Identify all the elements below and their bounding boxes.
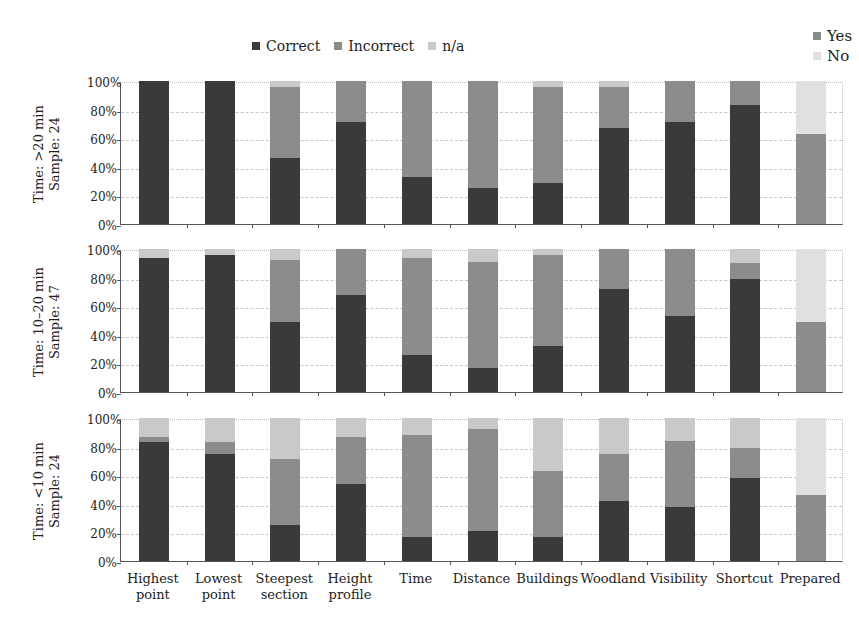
x-tick-mark bbox=[187, 392, 188, 396]
x-tick-mark bbox=[318, 392, 319, 396]
y-tick-mark bbox=[117, 112, 121, 113]
x-label-prepared: Prepared bbox=[777, 571, 843, 587]
bar-visibility bbox=[665, 418, 695, 561]
segment-correct bbox=[270, 525, 300, 561]
y-tick-mark bbox=[117, 140, 121, 141]
y-tick-mark bbox=[117, 308, 121, 309]
bar-height-profile bbox=[336, 418, 366, 561]
segment-no bbox=[796, 418, 826, 495]
bar-woodland bbox=[599, 81, 629, 224]
x-label-steepest: Steepestsection bbox=[251, 571, 317, 603]
swatch-incorrect bbox=[334, 42, 342, 50]
y-tick-label: 60% bbox=[87, 470, 117, 484]
segment-incorrect bbox=[665, 249, 695, 316]
x-tick-mark bbox=[450, 224, 451, 228]
segment-incorrect bbox=[402, 81, 432, 177]
panel-sample-label: Sample: 47 bbox=[47, 267, 63, 377]
panel-label-2: Time: <10 minSample: 24 bbox=[22, 419, 72, 562]
segment-correct bbox=[402, 537, 432, 561]
bar-time bbox=[402, 249, 432, 392]
x-tick-mark bbox=[713, 561, 714, 565]
segment-correct bbox=[599, 128, 629, 224]
segment-incorrect bbox=[665, 81, 695, 122]
bar-lowest-point bbox=[205, 249, 235, 392]
bar-lowest-point bbox=[205, 418, 235, 561]
y-tick-label: 80% bbox=[87, 442, 117, 456]
x-tick-mark bbox=[778, 224, 779, 228]
x-tick-mark bbox=[384, 392, 385, 396]
segment-correct bbox=[468, 188, 498, 224]
x-label-buildings: Buildings bbox=[514, 571, 580, 587]
x-tick-mark bbox=[515, 392, 516, 396]
x-label-height: Heightprofile bbox=[317, 571, 383, 603]
bar-height-profile bbox=[336, 81, 366, 224]
x-tick-mark bbox=[581, 224, 582, 228]
segment-correct bbox=[402, 177, 432, 224]
panel-sample-label: Sample: 24 bbox=[47, 105, 63, 203]
segment-correct bbox=[336, 122, 366, 224]
y-tick-label: 20% bbox=[87, 190, 117, 204]
segment-no bbox=[796, 81, 826, 134]
segment-correct bbox=[336, 484, 366, 561]
x-label-lowest: Lowestpoint bbox=[186, 571, 252, 603]
bar-height-profile bbox=[336, 249, 366, 392]
panel-time-label: Time: 10–20 min bbox=[31, 267, 47, 377]
segment-na bbox=[402, 418, 432, 435]
segment-correct bbox=[533, 346, 563, 392]
segment-incorrect bbox=[336, 249, 366, 295]
panel-sample-label: Sample: 24 bbox=[47, 442, 63, 540]
segment-correct bbox=[270, 322, 300, 392]
segment-correct bbox=[599, 501, 629, 561]
segment-incorrect bbox=[270, 87, 300, 159]
segment-incorrect bbox=[533, 255, 563, 347]
y-tick-label: 60% bbox=[87, 133, 117, 147]
segment-correct bbox=[205, 454, 235, 561]
x-label-highest: Highestpoint bbox=[120, 571, 186, 603]
segment-incorrect bbox=[730, 81, 760, 105]
segment-na bbox=[270, 418, 300, 459]
segment-na bbox=[730, 249, 760, 263]
y-tick-mark bbox=[117, 251, 121, 252]
segment-correct bbox=[665, 507, 695, 561]
segment-correct bbox=[205, 255, 235, 392]
x-tick-mark bbox=[713, 392, 714, 396]
y-tick-label: 0% bbox=[87, 556, 117, 570]
bar-prepared bbox=[796, 418, 826, 561]
segment-yes bbox=[796, 495, 826, 561]
x-tick-mark bbox=[778, 561, 779, 565]
legend-item-correct: Correct bbox=[252, 38, 320, 54]
segment-incorrect bbox=[468, 429, 498, 531]
y-tick-mark bbox=[117, 169, 121, 170]
y-tick-mark bbox=[117, 394, 121, 395]
y-tick-label: 40% bbox=[87, 330, 117, 344]
segment-na bbox=[139, 418, 169, 437]
y-tick-mark bbox=[117, 197, 121, 198]
segment-correct bbox=[139, 81, 169, 224]
bar-visibility bbox=[665, 249, 695, 392]
x-tick-mark bbox=[252, 224, 253, 228]
segment-correct bbox=[599, 289, 629, 392]
x-tick-mark bbox=[318, 561, 319, 565]
segment-incorrect bbox=[270, 260, 300, 321]
legend-item-na: n/a bbox=[428, 38, 464, 54]
x-tick-mark bbox=[187, 224, 188, 228]
x-label-shortcut: Shortcut bbox=[711, 571, 777, 587]
y-tick-mark bbox=[117, 337, 121, 338]
x-tick-mark bbox=[252, 561, 253, 565]
segment-correct bbox=[730, 279, 760, 392]
segment-incorrect bbox=[336, 81, 366, 122]
y-tick-mark bbox=[117, 506, 121, 507]
segment-incorrect bbox=[730, 448, 760, 478]
bar-steepest-section bbox=[270, 249, 300, 392]
bar-prepared bbox=[796, 81, 826, 224]
bar-steepest-section bbox=[270, 81, 300, 224]
y-tick-mark bbox=[117, 563, 121, 564]
x-tick-mark bbox=[384, 224, 385, 228]
y-tick-mark bbox=[117, 420, 121, 421]
panel-label-0: Time: >20 minSample: 24 bbox=[22, 82, 72, 225]
x-tick-mark bbox=[647, 561, 648, 565]
x-tick-mark bbox=[450, 392, 451, 396]
segment-correct bbox=[139, 258, 169, 392]
segment-incorrect bbox=[533, 87, 563, 183]
segment-correct bbox=[533, 183, 563, 224]
